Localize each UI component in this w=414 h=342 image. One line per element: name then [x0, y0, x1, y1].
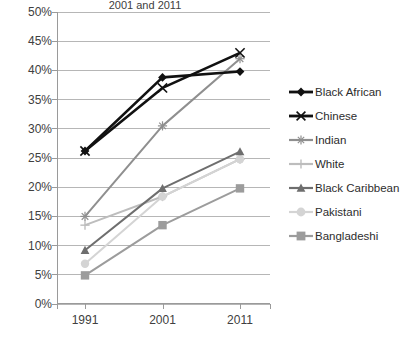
legend-marker-circle-icon — [288, 204, 314, 220]
legend-item-label: White — [315, 158, 344, 171]
legend-item-label: Bangladeshi — [315, 230, 378, 243]
legend-marker-diamond-icon — [288, 84, 314, 100]
data-point-plus — [80, 221, 89, 230]
y-axis-tick-label: 50% — [28, 6, 52, 18]
data-point-circle — [158, 192, 166, 200]
y-axis-tick-label: 35% — [28, 94, 52, 106]
data-point-asterisk — [297, 136, 306, 145]
data-point-square — [236, 184, 244, 192]
data-point-circle — [81, 260, 89, 268]
y-axis-tick — [52, 99, 57, 100]
y-axis-tick — [52, 70, 57, 71]
series-layer — [57, 12, 270, 304]
chart-legend: Black AfricanChineseIndianWhiteBlack Car… — [288, 80, 414, 248]
legend-marker-asterisk-icon — [288, 132, 314, 148]
data-point-x — [158, 83, 167, 92]
data-point-diamond — [236, 67, 245, 76]
legend-item-label: Black African — [315, 86, 381, 99]
data-point-square — [297, 232, 306, 241]
x-axis-tick-label: 1991 — [72, 314, 99, 327]
legend-item[interactable]: Chinese — [288, 104, 414, 128]
data-point-asterisk — [158, 121, 167, 130]
x-axis-tick-label: 2011 — [227, 314, 253, 327]
data-point-circle — [236, 155, 244, 163]
data-point-plus — [297, 160, 306, 169]
legend-marker-plus-icon — [288, 156, 314, 172]
legend-item-label: Black Caribbean — [315, 182, 399, 195]
y-axis-tick — [52, 245, 57, 246]
legend-marker-square-icon — [288, 228, 314, 244]
y-axis-tick-label: 45% — [28, 35, 52, 47]
legend-item-label: Chinese — [315, 110, 357, 123]
y-axis-tick — [52, 41, 57, 42]
y-axis-tick — [52, 128, 57, 129]
y-axis-tick — [52, 187, 57, 188]
plot-area — [57, 12, 270, 304]
y-axis-tick — [52, 274, 57, 275]
legend-marker-x-icon — [288, 108, 314, 124]
y-axis-tick — [52, 12, 57, 13]
series-line — [85, 72, 240, 151]
legend-item[interactable]: Indian — [288, 128, 414, 152]
y-axis-tick-label: 15% — [28, 210, 52, 222]
x-axis-edge-tick — [270, 304, 271, 309]
x-axis-tick-label: 2001 — [149, 314, 176, 327]
series-line — [85, 53, 240, 151]
legend-item[interactable]: Pakistani — [288, 200, 414, 224]
legend-item[interactable]: Bangladeshi — [288, 224, 414, 248]
x-axis-labels: 199120012011 — [57, 304, 270, 326]
y-axis-tick-label: 5% — [35, 269, 52, 281]
y-axis-tick-label: 40% — [28, 64, 52, 76]
line-chart: 2001 and 2011 0%5%10%15%20%25%30%35%40%4… — [0, 0, 414, 342]
legend-item[interactable]: White — [288, 152, 414, 176]
data-point-square — [158, 221, 166, 229]
data-point-diamond — [297, 88, 306, 97]
y-axis-tick — [52, 158, 57, 159]
series-line — [85, 159, 240, 264]
legend-marker-triangle-icon — [288, 180, 314, 196]
y-axis-tick — [52, 216, 57, 217]
legend-item[interactable]: Black African — [288, 80, 414, 104]
y-axis-labels: 0%5%10%15%20%25%30%35%40%45%50% — [0, 12, 52, 304]
y-axis-tick-label: 20% — [28, 181, 52, 193]
data-point-square — [81, 271, 89, 279]
data-point-triangle — [158, 184, 167, 192]
data-point-triangle — [236, 147, 245, 155]
legend-item-label: Indian — [315, 134, 346, 147]
y-axis-tick-label: 30% — [28, 123, 52, 135]
data-point-asterisk — [80, 212, 89, 221]
legend-item-label: Pakistani — [315, 206, 362, 219]
y-axis-tick-label: 10% — [28, 240, 52, 252]
data-point-circle — [297, 208, 306, 217]
y-axis-tick-label: 25% — [28, 152, 52, 164]
y-axis-tick-label: 0% — [35, 298, 52, 310]
legend-item[interactable]: Black Caribbean — [288, 176, 414, 200]
